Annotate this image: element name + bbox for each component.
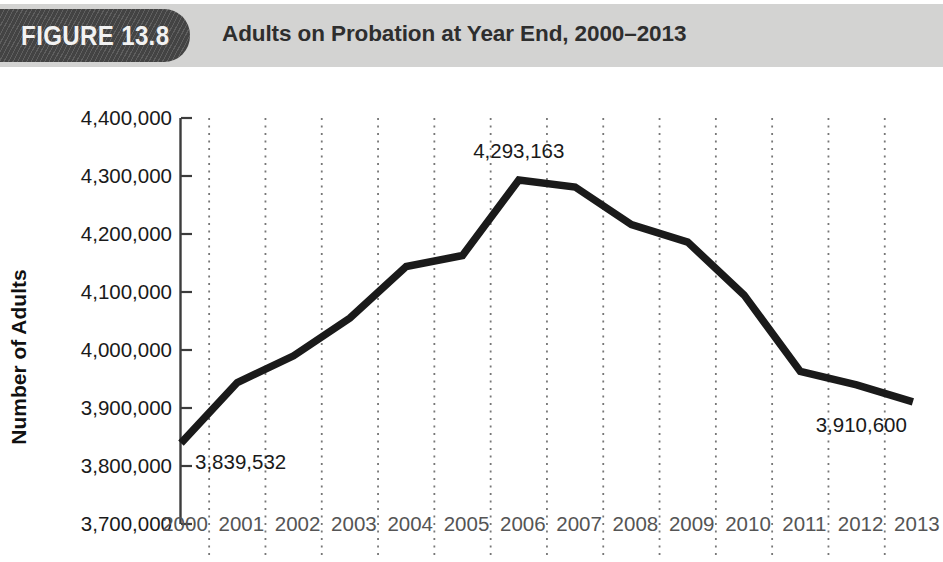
y-axis-tick-marks (181, 118, 192, 524)
x-axis-tick-labels: 2000200120022003200420052006200720082009… (162, 512, 940, 535)
x-axis-tick-label: 2004 (387, 512, 433, 535)
x-axis-tick-label: 2002 (275, 512, 321, 535)
y-axis-tick-label: 3,800,000 (81, 454, 172, 477)
x-axis-tick-label: 2000 (162, 512, 208, 535)
chart-container: Number of Adults 4,400,0004,300,0004,200… (0, 67, 943, 562)
y-axis-tick-label: 4,100,000 (81, 280, 172, 303)
x-axis-tick-label: 2010 (725, 512, 771, 535)
x-axis-tick-label: 2012 (838, 512, 884, 535)
figure-number-label: FIGURE 13.8 (21, 20, 169, 52)
y-axis-tick-label: 4,300,000 (81, 164, 172, 187)
x-axis-tick-label: 2007 (556, 512, 602, 535)
x-axis-tick-label: 2013 (894, 512, 940, 535)
line-chart: Number of Adults 4,400,0004,300,0004,200… (0, 67, 943, 562)
y-axis-title: Number of Adults (7, 269, 30, 444)
x-axis-tick-label: 2008 (613, 512, 659, 535)
x-axis-tick-label: 2003 (331, 512, 377, 535)
data-point-label: 3,910,600 (816, 413, 907, 436)
data-point-labels: 3,839,5324,293,1633,910,600 (195, 139, 907, 473)
x-axis-tick-label: 2005 (444, 512, 490, 535)
x-axis-tick-label: 2001 (218, 512, 264, 535)
x-axis-tick-label: 2009 (669, 512, 715, 535)
x-axis-tick-label: 2011 (782, 512, 826, 535)
y-axis-tick-label: 4,400,000 (81, 106, 172, 129)
y-axis-tick-label: 3,700,000 (81, 512, 172, 535)
y-axis-tick-label: 3,900,000 (81, 396, 172, 419)
y-axis-tick-label: 4,200,000 (81, 222, 172, 245)
y-axis-tick-label: 4,000,000 (81, 338, 172, 361)
x-axis-tick-label: 2006 (500, 512, 546, 535)
data-point-label: 4,293,163 (473, 139, 564, 162)
data-point-label: 3,839,532 (195, 450, 286, 473)
page-title: Adults on Probation at Year End, 2000–20… (222, 21, 686, 47)
figure-number-badge: FIGURE 13.8 (0, 9, 190, 62)
y-axis-tick-labels: 4,400,0004,300,0004,200,0004,100,0004,00… (81, 106, 172, 535)
